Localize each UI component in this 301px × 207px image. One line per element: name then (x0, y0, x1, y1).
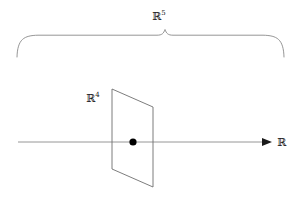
real-axis-label: ℝ (277, 136, 286, 148)
ambient-space-label-exponent: 5 (161, 9, 165, 17)
real-axis-group (18, 138, 272, 146)
ambient-brace (17, 30, 284, 58)
hyperplane-parallelogram (112, 89, 153, 187)
hyperplane-label: ℝ4 (86, 92, 100, 104)
real-axis-label-base: ℝ (277, 136, 286, 149)
ambient-space-label-base: ℝ (152, 10, 161, 23)
hyperplane-group (112, 89, 153, 187)
diagram-canvas: ℝ5 ℝ4 ℝ (0, 0, 301, 207)
ambient-space-label: ℝ5 (152, 10, 166, 22)
hyperplane-label-exponent: 4 (95, 91, 99, 99)
ambient-brace-group (17, 30, 284, 58)
intersection-point-dot (129, 138, 136, 145)
diagram-svg (0, 0, 301, 207)
hyperplane-label-base: ℝ (86, 92, 95, 105)
real-axis-arrowhead (262, 138, 272, 146)
